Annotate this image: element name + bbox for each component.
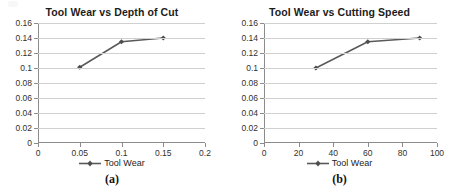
y-tick-label-b: 0.08 xyxy=(241,78,258,88)
y-tick-a xyxy=(34,83,38,84)
x-tick-b xyxy=(299,143,300,147)
x-tick-label-a: 0.15 xyxy=(155,148,172,158)
legend-b: Tool Wear xyxy=(224,158,449,168)
x-tick-label-a: 0.1 xyxy=(116,148,128,158)
y-tick-label-a: 0.08 xyxy=(15,78,32,88)
y-tick-b xyxy=(260,38,264,39)
y-tick-label-b: 0.06 xyxy=(241,93,258,103)
y-tick-label-b: 0.02 xyxy=(241,123,258,133)
gridline-y-b xyxy=(264,23,437,24)
legend-marker-icon-b xyxy=(307,159,329,168)
gridline-y-b xyxy=(264,113,437,114)
y-tick-label-a: 0 xyxy=(27,138,32,148)
gridline-y-a xyxy=(38,128,205,129)
y-tick-a xyxy=(34,53,38,54)
chart-title-a: Tool Wear vs Depth of Cut xyxy=(0,6,224,18)
y-tick-b xyxy=(260,113,264,114)
x-tick-a xyxy=(80,143,81,147)
y-tick-label-b: 0.12 xyxy=(241,48,258,58)
y-tick-a xyxy=(34,98,38,99)
y-tick-label-a: 0.06 xyxy=(15,93,32,103)
y-tick-b xyxy=(260,128,264,129)
chart-title-b: Tool Wear vs Cutting Speed xyxy=(224,6,449,18)
gridline-y-b xyxy=(264,128,437,129)
y-tick-b xyxy=(260,98,264,99)
x-tick-b xyxy=(264,143,265,147)
y-tick-label-b: 0.14 xyxy=(241,33,258,43)
y-tick-a xyxy=(34,128,38,129)
legend-label-a: Tool Wear xyxy=(104,158,144,168)
y-tick-label-b: 0.04 xyxy=(241,108,258,118)
x-tick-label-b: 20 xyxy=(294,148,303,158)
data-point-marker-b xyxy=(365,39,370,44)
gridline-y-a xyxy=(38,98,205,99)
y-tick-b xyxy=(260,53,264,54)
gridline-y-a xyxy=(38,38,205,39)
x-tick-label-b: 60 xyxy=(363,148,372,158)
gridline-y-b xyxy=(264,98,437,99)
gridline-y-a xyxy=(38,23,205,24)
x-tick-a xyxy=(205,143,206,147)
x-tick-b xyxy=(368,143,369,147)
figure-row: Tool Wear vs Depth of Cut 00.020.040.060… xyxy=(0,0,449,196)
legend-marker-icon-a xyxy=(79,159,101,168)
gridline-y-b xyxy=(264,53,437,54)
panel-caption-b: (b) xyxy=(224,172,449,187)
legend-label-b: Tool Wear xyxy=(332,158,372,168)
x-tick-label-a: 0.05 xyxy=(71,148,88,158)
y-tick-label-a: 0.1 xyxy=(20,63,32,73)
x-tick-b xyxy=(437,143,438,147)
y-tick-b xyxy=(260,23,264,24)
y-tick-b xyxy=(260,83,264,84)
y-tick-label-a: 0.14 xyxy=(15,33,32,43)
x-tick-label-b: 0 xyxy=(262,148,267,158)
x-tick-b xyxy=(402,143,403,147)
x-tick-a xyxy=(122,143,123,147)
gridline-y-a xyxy=(38,113,205,114)
x-tick-label-b: 40 xyxy=(328,148,337,158)
chart-panel-a: Tool Wear vs Depth of Cut 00.020.040.060… xyxy=(0,0,224,196)
panel-caption-a: (a) xyxy=(0,172,224,187)
y-tick-label-a: 0.12 xyxy=(15,48,32,58)
plot-area-a: 00.020.040.060.080.10.120.140.1600.050.1… xyxy=(38,23,205,143)
gridline-y-a xyxy=(38,83,205,84)
gridline-y-a xyxy=(38,68,205,69)
y-tick-b xyxy=(260,68,264,69)
y-tick-label-b: 0 xyxy=(253,138,258,148)
y-tick-label-b: 0.16 xyxy=(241,18,258,28)
x-tick-label-b: 80 xyxy=(398,148,407,158)
y-tick-label-a: 0.04 xyxy=(15,108,32,118)
y-tick-label-a: 0.02 xyxy=(15,123,32,133)
y-tick-a xyxy=(34,38,38,39)
x-tick-label-a: 0 xyxy=(36,148,41,158)
x-tick-a xyxy=(38,143,39,147)
chart-panel-b: Tool Wear vs Cutting Speed 00.020.040.06… xyxy=(224,0,449,196)
legend-a: Tool Wear xyxy=(0,158,224,168)
gridline-y-b xyxy=(264,38,437,39)
x-tick-label-b: 100 xyxy=(430,148,444,158)
gridline-y-b xyxy=(264,68,437,69)
y-tick-label-b: 0.1 xyxy=(246,63,258,73)
x-tick-a xyxy=(163,143,164,147)
plot-area-b: 00.020.040.060.080.10.120.140.1602040608… xyxy=(264,23,437,143)
y-tick-a xyxy=(34,113,38,114)
gridline-y-b xyxy=(264,83,437,84)
y-tick-a xyxy=(34,68,38,69)
y-tick-label-a: 0.16 xyxy=(15,18,32,28)
x-tick-b xyxy=(333,143,334,147)
gridline-y-a xyxy=(38,53,205,54)
y-tick-a xyxy=(34,23,38,24)
x-tick-label-a: 0.2 xyxy=(199,148,211,158)
